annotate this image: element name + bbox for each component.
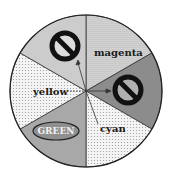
label-magenta: magenta [94,47,143,58]
green-badge: GREEN [33,122,79,140]
no-symbol-icon [115,77,141,103]
label-green: GREEN [37,126,74,136]
label-yellow: yellow [32,86,68,97]
color-wheel-diagram: magenta yellow cyan GREEN [0,0,170,180]
no-symbol-icon [52,33,78,59]
label-cyan: cyan [100,123,126,134]
